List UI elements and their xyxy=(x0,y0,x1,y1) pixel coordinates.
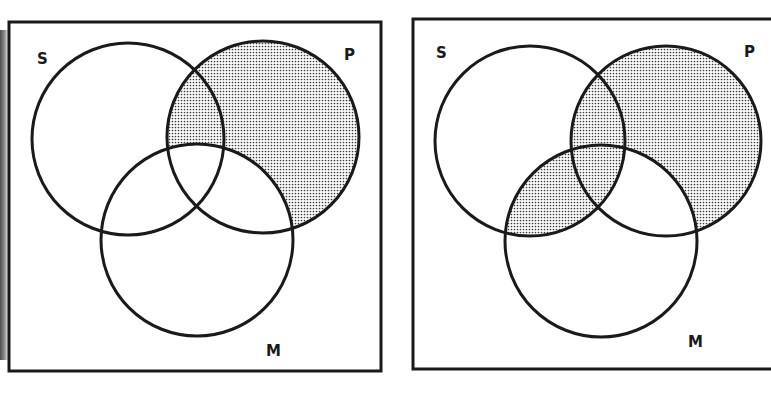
venn-diagram-right: S P M xyxy=(0,0,771,394)
label-p: P xyxy=(744,43,755,61)
label-m: M xyxy=(688,333,703,351)
label-m: M xyxy=(266,342,281,360)
label-s: S xyxy=(37,50,48,68)
shaded-region-p-minus-m xyxy=(0,0,771,394)
label-s: S xyxy=(436,44,447,62)
venn-diagrams-canvas: S P M S P M xyxy=(0,0,771,394)
label-p: P xyxy=(344,46,355,64)
